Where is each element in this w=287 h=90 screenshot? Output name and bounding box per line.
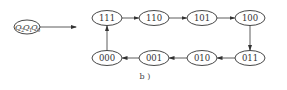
- state-node-000: 000: [92, 51, 122, 66]
- figure-caption: b ): [140, 72, 151, 81]
- state-label: 001: [146, 53, 162, 63]
- state-label: 010: [194, 53, 210, 63]
- state-label: 011: [242, 53, 258, 63]
- state-node-010: 010: [187, 51, 217, 66]
- state-node-011: 011: [235, 51, 265, 66]
- state-node-100: 100: [235, 11, 265, 26]
- state-node-110: 110: [139, 11, 169, 26]
- svg-text:0: 0: [37, 27, 40, 33]
- state-label: 101: [194, 13, 210, 23]
- state-label: 110: [146, 13, 162, 23]
- state-label: 000: [99, 53, 115, 63]
- state-label: 111: [99, 13, 115, 23]
- state-diagram: Q2 Q1 Q0 111 110 101 100 011 010 001 000: [0, 0, 287, 90]
- state-label: 100: [242, 13, 258, 23]
- state-node-101: 101: [187, 11, 217, 26]
- state-node-111: 111: [92, 11, 122, 26]
- state-variable-legend: Q2 Q1 Q0: [14, 20, 40, 34]
- state-node-001: 001: [139, 51, 169, 66]
